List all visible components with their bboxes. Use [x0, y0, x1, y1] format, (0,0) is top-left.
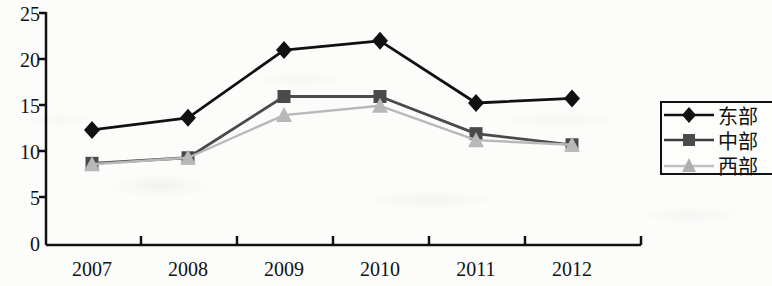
series-line — [92, 97, 572, 164]
legend-marker-diamond-icon — [662, 103, 716, 127]
data-series-layer — [84, 32, 580, 171]
legend-entry-west[interactable]: 西部 — [662, 153, 758, 177]
data-point — [180, 109, 196, 127]
legend: 东部 中部 西部 — [660, 101, 772, 175]
data-point — [278, 90, 291, 103]
legend-entry-central[interactable]: 中部 — [662, 128, 758, 152]
data-point — [372, 32, 388, 50]
legend-marker-square-icon — [662, 128, 716, 152]
legend-label-west: 西部 — [718, 151, 758, 180]
data-point — [468, 94, 484, 112]
legend-marker-triangle-icon — [662, 153, 716, 177]
x-axis-ticks — [141, 236, 641, 245]
series-triangle — [84, 98, 580, 171]
data-point — [84, 121, 100, 139]
plot-area — [0, 0, 772, 286]
series-line — [92, 41, 572, 130]
legend-entry-east[interactable]: 东部 — [662, 103, 758, 127]
line-chart: 25 20 15 10 5 0 2007 2008 2009 2010 2011… — [0, 0, 772, 286]
data-point — [276, 41, 292, 59]
series-diamond — [84, 32, 580, 139]
data-point — [564, 89, 580, 107]
